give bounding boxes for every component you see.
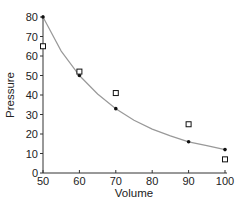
square-marker xyxy=(223,157,228,162)
y-tick-label: 20 xyxy=(26,128,38,140)
x-tick-label: 60 xyxy=(73,175,85,187)
x-axis-label: Volume xyxy=(115,187,153,199)
y-tick-label: 70 xyxy=(26,31,38,43)
x-tick-label: 90 xyxy=(182,175,194,187)
square-marker xyxy=(186,122,191,127)
y-tick-label: 30 xyxy=(26,109,38,121)
x-tick-label: 100 xyxy=(216,175,234,187)
data-markers xyxy=(41,15,228,162)
square-marker xyxy=(77,69,82,74)
fitted-curve-line xyxy=(43,17,225,150)
square-marker xyxy=(113,91,118,96)
dot-marker xyxy=(223,148,227,152)
y-tick-label: 10 xyxy=(26,148,38,160)
axes: 010203040506070805060708090100 xyxy=(26,11,234,187)
x-tick-label: 70 xyxy=(110,175,122,187)
pressure-volume-chart: 010203040506070805060708090100 Volume Pr… xyxy=(0,0,244,211)
y-tick-label: 40 xyxy=(26,89,38,101)
y-tick-label: 80 xyxy=(26,11,38,23)
y-axis-label: Pressure xyxy=(4,72,16,118)
dot-marker xyxy=(114,107,118,111)
fitted-curve xyxy=(43,17,225,150)
y-tick-label: 60 xyxy=(26,50,38,62)
y-tick-label: 50 xyxy=(26,70,38,82)
x-tick-label: 50 xyxy=(37,175,49,187)
square-marker xyxy=(41,44,46,49)
dot-marker xyxy=(41,15,45,19)
x-tick-label: 80 xyxy=(146,175,158,187)
dot-marker xyxy=(187,140,191,144)
